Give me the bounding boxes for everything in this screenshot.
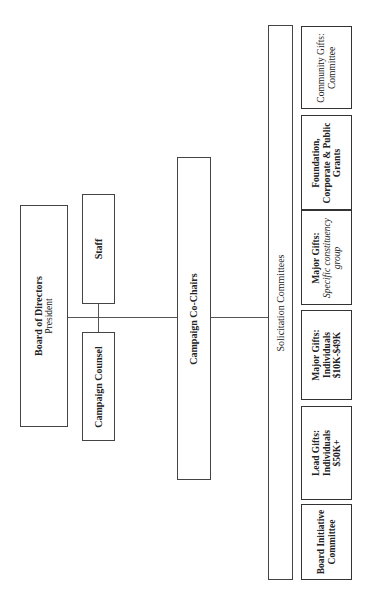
committee-label: Board Initiative Committee — [316, 510, 337, 575]
committee-label: Lead Gifts: Individuals $50K+ — [311, 430, 343, 476]
board-subtitle: President — [44, 276, 55, 356]
campaign-counsel-label: Campaign Counsel — [93, 346, 104, 427]
staff-label: Staff — [93, 239, 104, 260]
connector-staff-counsel — [98, 304, 99, 332]
board-label: Board of Directors President — [33, 276, 55, 356]
solicitation-committees-box[interactable]: Solicitation Committees — [268, 25, 293, 580]
campaign-cochairs-box[interactable]: Campaign Co-Chairs — [177, 157, 211, 480]
committee-label: Foundation, Corporate & Public Grants — [311, 122, 343, 203]
board-title: Board of Directors — [33, 276, 44, 356]
staff-box[interactable]: Staff — [82, 194, 115, 304]
committee-board-initiative[interactable]: Board Initiative Committee — [301, 504, 352, 580]
committee-major-gifts-individuals[interactable]: Major Gifts: Individuals $10K-$49K — [301, 310, 352, 400]
committee-community-gifts[interactable]: Community Gifts: Committee — [301, 26, 352, 109]
campaign-counsel-box[interactable]: Campaign Counsel — [82, 332, 115, 441]
committee-major-gifts-constituency[interactable]: Major Gifts: Specific constituency group — [301, 210, 352, 305]
committee-lead-gifts[interactable]: Lead Gifts: Individuals $50K+ — [301, 406, 352, 500]
committee-label: Major Gifts: Specific constituency group — [311, 218, 343, 298]
committee-label: Community Gifts: Committee — [316, 33, 337, 102]
committee-label: Major Gifts: Individuals $10K-$49K — [311, 329, 343, 380]
board-of-directors-box[interactable]: Board of Directors President — [20, 205, 68, 427]
solicitation-committees-label: Solicitation Committees — [275, 254, 286, 351]
committee-foundation-grants[interactable]: Foundation, Corporate & Public Grants — [301, 115, 352, 210]
campaign-cochairs-label: Campaign Co-Chairs — [188, 273, 199, 364]
